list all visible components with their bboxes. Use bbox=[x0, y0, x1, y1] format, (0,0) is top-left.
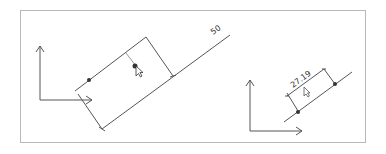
axes-icon-left bbox=[36, 46, 92, 104]
dimension-label-left: 50 bbox=[209, 23, 223, 36]
dimension-right bbox=[284, 69, 352, 122]
point-right-1 bbox=[296, 110, 300, 114]
cursor-arrow-icon bbox=[136, 66, 143, 77]
dimension-left bbox=[75, 35, 230, 131]
diagram-canvas: 50 27.19 bbox=[0, 0, 386, 154]
cursor-arrow-icon bbox=[304, 87, 310, 97]
point-right-2 bbox=[333, 82, 337, 86]
point-left-1 bbox=[87, 78, 91, 82]
